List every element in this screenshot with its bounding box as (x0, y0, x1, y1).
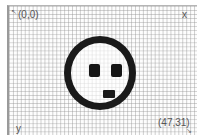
end-arrow-icon: ↘ (186, 127, 192, 134)
mouth (103, 90, 115, 98)
left-eye (89, 64, 100, 77)
face-outline (64, 36, 136, 110)
end-coordinate-label: (47,31) (158, 118, 190, 128)
right-eye (111, 64, 122, 77)
y-axis-label: y (16, 124, 21, 134)
origin-coordinate-label: (0,0) (18, 10, 39, 20)
origin-arrow-icon: ↖ (11, 8, 17, 15)
x-axis-label: x (182, 10, 187, 20)
